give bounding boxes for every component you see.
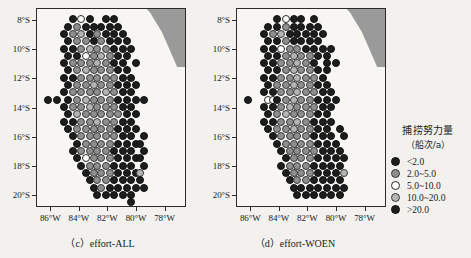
y-tick-label: 14°S <box>0 103 30 113</box>
panel-caption-c: （c）effort-ALL <box>0 235 200 250</box>
y-tick <box>32 137 36 138</box>
dot-layer-effort-woen <box>237 9 385 206</box>
dot-layer-effort-all <box>37 9 185 206</box>
y-tick-label: 8°S <box>198 15 230 25</box>
y-tick-label: 16°S <box>198 132 230 142</box>
panel-effort-woen: 8°S10°S12°S14°S16°S18°S20°S86°W84°W82°W8… <box>195 0 395 258</box>
y-tick <box>232 20 236 21</box>
x-tick-label: 84°W <box>268 213 289 223</box>
x-tick-label: 80°W <box>126 213 147 223</box>
x-tick-label: 80°W <box>326 213 347 223</box>
x-tick <box>250 207 251 211</box>
x-tick <box>365 207 366 211</box>
effort-cell <box>302 191 310 199</box>
y-tick <box>32 20 36 21</box>
panel-caption-d: （d）effort-WOEN <box>195 235 395 250</box>
y-tick <box>232 137 236 138</box>
y-tick-label: 16°S <box>0 132 30 142</box>
y-tick-label: 12°S <box>0 73 30 83</box>
legend-item: >20.0 <box>385 204 471 215</box>
y-tick <box>232 78 236 79</box>
y-tick <box>232 108 236 109</box>
legend-items: <2.02.0~5.05.0~10.010.0~20.0>20.0 <box>385 156 471 215</box>
legend-swatch <box>391 157 400 166</box>
effort-cell <box>336 191 344 199</box>
legend-item: <2.0 <box>385 156 471 167</box>
legend-title: 捕捞努力量 <box>385 124 471 138</box>
y-tick-label: 18°S <box>0 161 30 171</box>
effort-cell <box>310 191 318 199</box>
effort-cell <box>244 96 252 104</box>
y-tick <box>32 166 36 167</box>
legend-item: 5.0~10.0 <box>385 180 471 191</box>
effort-cell <box>140 96 148 104</box>
y-tick <box>232 195 236 196</box>
legend-swatch <box>391 181 400 190</box>
effort-cell <box>119 191 127 199</box>
legend-swatch <box>391 169 400 178</box>
effort-cell <box>53 96 61 104</box>
plot-area-effort-woen <box>236 8 386 207</box>
x-tick <box>307 207 308 211</box>
y-tick <box>32 49 36 50</box>
legend-swatch <box>391 193 400 202</box>
x-tick <box>279 207 280 211</box>
effort-cell <box>332 59 340 67</box>
x-tick <box>165 207 166 211</box>
y-tick <box>32 78 36 79</box>
x-tick-label: 82°W <box>97 213 118 223</box>
legend-item: 2.0~5.0 <box>385 168 471 179</box>
effort-cell <box>110 191 118 199</box>
x-tick <box>136 207 137 211</box>
legend-label: 5.0~10.0 <box>407 181 441 191</box>
y-tick <box>232 166 236 167</box>
y-tick-label: 10°S <box>0 44 30 54</box>
legend: 捕捞努力量 （船次/a） <2.02.0~5.05.0~10.010.0~20.… <box>385 124 471 215</box>
x-tick-label: 78°W <box>154 213 175 223</box>
y-tick-label: 12°S <box>198 73 230 83</box>
x-tick <box>50 207 51 211</box>
panel-effort-all: 8°S10°S12°S14°S16°S18°S20°S86°W84°W82°W8… <box>0 0 200 258</box>
x-tick-label: 82°W <box>297 213 318 223</box>
y-tick <box>232 49 236 50</box>
legend-label: >20.0 <box>407 205 429 215</box>
effort-cell <box>127 198 135 206</box>
effort-cell <box>44 96 52 104</box>
x-tick-label: 86°W <box>240 213 261 223</box>
effort-cell <box>293 191 301 199</box>
effort-cell <box>340 132 348 140</box>
figure-effort-maps: 8°S10°S12°S14°S16°S18°S20°S86°W84°W82°W8… <box>0 0 471 258</box>
y-tick-label: 8°S <box>0 15 30 25</box>
x-tick <box>336 207 337 211</box>
effort-cell <box>319 191 327 199</box>
legend-item: 10.0~20.0 <box>385 192 471 203</box>
x-tick <box>79 207 80 211</box>
x-tick-label: 84°W <box>68 213 89 223</box>
effort-cell <box>93 191 101 199</box>
effort-cell <box>140 184 148 192</box>
legend-swatch <box>391 205 400 214</box>
effort-cell <box>132 59 140 67</box>
y-tick <box>32 195 36 196</box>
legend-subtitle: （船次/a） <box>385 138 471 152</box>
legend-label: 2.0~5.0 <box>407 169 436 179</box>
y-tick-label: 20°S <box>0 190 30 200</box>
y-tick-label: 10°S <box>198 44 230 54</box>
x-tick <box>107 207 108 211</box>
y-tick-label: 14°S <box>198 103 230 113</box>
x-tick-label: 78°W <box>354 213 375 223</box>
plot-area-effort-all <box>36 8 186 207</box>
effort-cell <box>327 191 335 199</box>
x-tick-label: 86°W <box>40 213 61 223</box>
legend-label: 10.0~20.0 <box>407 193 445 203</box>
y-tick <box>32 108 36 109</box>
legend-label: <2.0 <box>407 157 424 167</box>
y-tick-label: 18°S <box>198 161 230 171</box>
effort-cell <box>102 191 110 199</box>
y-tick-label: 20°S <box>198 190 230 200</box>
